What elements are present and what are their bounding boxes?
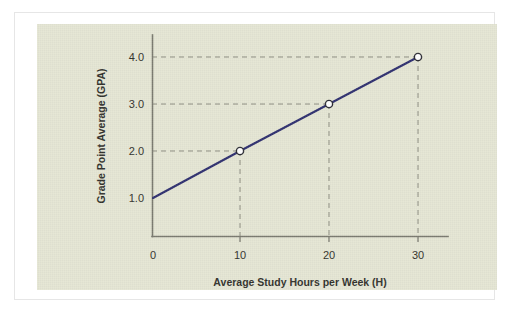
x-tick-label-20: 20 bbox=[323, 249, 335, 261]
x-axis-title: Average Study Hours per Week (H) bbox=[213, 276, 386, 288]
data-line-series-1 bbox=[153, 57, 418, 198]
x-axis-ticks bbox=[240, 237, 418, 243]
data-point-20-3 bbox=[325, 100, 332, 107]
x-tick-label-0: 0 bbox=[150, 249, 156, 261]
data-point-30-4 bbox=[414, 53, 421, 60]
gridlines-vertical bbox=[240, 57, 418, 236]
y-tick-label-1: 1.0 bbox=[129, 192, 144, 204]
chart-panel: 4.0 3.0 2.0 1.0 0 10 20 30 Grade Point A… bbox=[37, 24, 497, 290]
y-tick-label-3: 3.0 bbox=[129, 98, 144, 110]
y-tick-label-2: 2.0 bbox=[129, 145, 144, 157]
chart-page: 4.0 3.0 2.0 1.0 0 10 20 30 Grade Point A… bbox=[0, 0, 509, 312]
y-tick-label-4: 4.0 bbox=[129, 51, 144, 63]
x-tick-label-10: 10 bbox=[234, 249, 246, 261]
data-point-10-2 bbox=[236, 147, 243, 154]
gridlines-horizontal bbox=[152, 57, 418, 151]
x-tick-label-30: 30 bbox=[412, 249, 424, 261]
line-chart: 4.0 3.0 2.0 1.0 0 10 20 30 Grade Point A… bbox=[37, 24, 497, 290]
y-axis-title: Grade Point Average (GPA) bbox=[95, 69, 107, 204]
